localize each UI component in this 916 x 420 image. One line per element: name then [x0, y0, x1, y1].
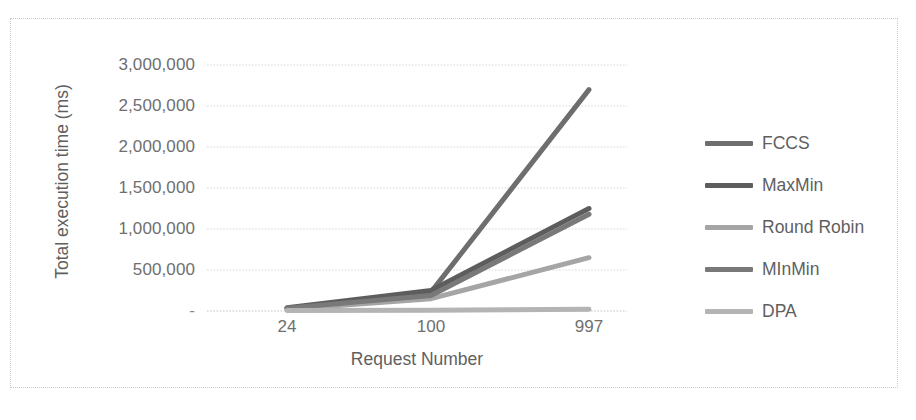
legend-item[interactable]: Round Robin — [705, 206, 895, 248]
x-tick-label: 100 — [417, 317, 445, 337]
y-tick-label: 1,000,000 — [118, 219, 195, 239]
legend-swatch-icon — [705, 141, 753, 146]
y-tick-label: 2,500,000 — [118, 96, 195, 116]
y-tick-label: 500,000 — [133, 260, 195, 280]
plot-area — [207, 65, 627, 311]
legend-swatch-icon — [705, 309, 753, 314]
y-tick-label: 1,500,000 — [118, 178, 195, 198]
x-tick-label: 24 — [278, 317, 297, 337]
legend-item[interactable]: MInMin — [705, 248, 895, 290]
series-line — [287, 90, 589, 309]
series-line — [287, 214, 589, 308]
legend-swatch-icon — [705, 267, 753, 272]
plot-svg — [207, 65, 627, 311]
y-tick-label: 3,000,000 — [118, 55, 195, 75]
legend-item-label: FCCS — [762, 133, 810, 154]
legend-swatch-icon — [705, 183, 753, 188]
legend-item[interactable]: DPA — [705, 290, 895, 332]
chart-legend: FCCSMaxMinRound RobinMInMinDPA — [705, 122, 895, 332]
legend-swatch-icon — [705, 225, 753, 230]
gridlines — [207, 65, 627, 311]
legend-item-label: DPA — [762, 301, 797, 322]
legend-item[interactable]: FCCS — [705, 122, 895, 164]
y-tick-label: 2,000,000 — [118, 137, 195, 157]
legend-item-label: MInMin — [762, 259, 819, 280]
chart-screenshot: Total execution time (ms) 3,000,000 2,50… — [0, 0, 916, 420]
x-axis-title: Request Number — [207, 349, 627, 370]
y-axis-title: Total execution time (ms) — [52, 67, 73, 297]
legend-item-label: MaxMin — [762, 175, 823, 196]
x-axis-tick-labels: 24 100 997 — [207, 317, 627, 343]
y-axis-tick-labels: 3,000,000 2,500,000 2,000,000 1,500,000 … — [71, 19, 201, 389]
legend-item[interactable]: MaxMin — [705, 164, 895, 206]
series-lines — [287, 90, 589, 311]
chart-frame: Total execution time (ms) 3,000,000 2,50… — [10, 18, 898, 388]
x-tick-label: 997 — [575, 317, 603, 337]
series-line — [287, 309, 589, 310]
y-tick-label-zero: - — [189, 301, 195, 321]
legend-item-label: Round Robin — [762, 217, 864, 238]
